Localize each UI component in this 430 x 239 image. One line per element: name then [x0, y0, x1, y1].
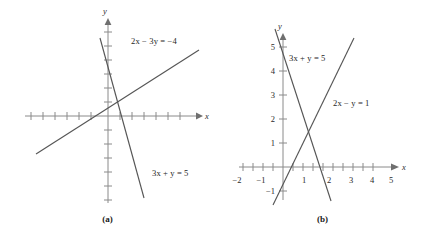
- graph-line-2x-y-b: [273, 38, 354, 205]
- graph-line-3x-y-a: [100, 38, 144, 198]
- panel-b: −2 −1 1 2 3 4 5 −1 1 2 3 4 5 x y 3x + y …: [215, 0, 430, 239]
- x-axis-arrow-a: [196, 113, 203, 120]
- figure-two-panel-linear-systems: x y 2x − 3y = −4 3x + y = 5 (a): [0, 0, 430, 239]
- panel-a: x y 2x − 3y = −4 3x + y = 5 (a): [0, 0, 215, 239]
- y-tick-label-4: 4: [271, 66, 276, 76]
- y-tick-label--1: −1: [266, 186, 275, 196]
- x-tick-label-2: 2: [327, 175, 331, 185]
- x-axis-arrow-b: [391, 164, 399, 171]
- x-axis-label-a: x: [204, 111, 209, 121]
- panel-a-plot: x y: [0, 0, 215, 239]
- panel-b-plot: −2 −1 1 2 3 4 5 −1 1 2 3 4 5 x y: [215, 0, 430, 239]
- line-label-3x-y-b: 3x + y = 5: [289, 53, 325, 63]
- x-tick-label-5: 5: [389, 175, 393, 185]
- y-tick-label-1: 1: [271, 138, 275, 148]
- x-axis-label-b: x: [401, 162, 406, 172]
- y-tick-label-2: 2: [271, 114, 275, 124]
- line-label-2x-y-b: 2x − y = 1: [333, 98, 369, 108]
- y-axis-label-a: y: [102, 6, 107, 16]
- y-axis-label-b: y: [277, 21, 282, 31]
- x-tick-label-4: 4: [370, 175, 375, 185]
- y-axis-arrow-b: [280, 33, 287, 40]
- line-label-2x-3y-a: 2x − 3y = −4: [131, 36, 177, 46]
- caption-b: (b): [215, 214, 430, 224]
- caption-a: (a): [0, 214, 215, 224]
- y-tick-label-5: 5: [271, 42, 275, 52]
- line-label-3x-y-a: 3x + y = 5: [152, 168, 188, 178]
- y-tick-label-3: 3: [271, 90, 275, 100]
- y-axis-arrow-a: [105, 18, 112, 25]
- x-tick-label-3: 3: [349, 175, 353, 185]
- x-tick-label-1: 1: [302, 175, 306, 185]
- x-tick-label--2: −2: [232, 175, 241, 185]
- x-tick-label--1: −1: [256, 175, 265, 185]
